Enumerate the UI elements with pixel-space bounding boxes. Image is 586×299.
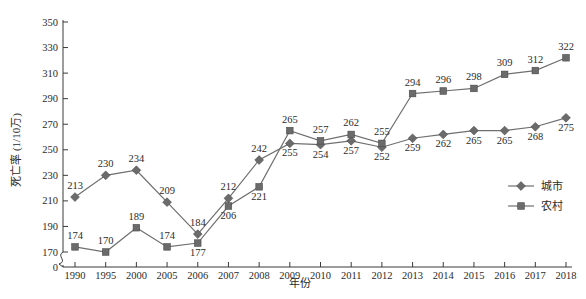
x-tick-label: 2005 [157, 270, 178, 281]
data-point-label: 189 [129, 211, 145, 222]
data-point-label: 254 [313, 149, 330, 160]
x-tick-label: 2008 [249, 270, 270, 281]
y-tick-label: 210 [42, 195, 58, 206]
data-point-marker [348, 131, 355, 138]
data-point-label: 298 [466, 71, 482, 82]
data-point-label: 309 [497, 57, 513, 68]
x-tick-label: 2011 [341, 270, 362, 281]
data-point-label: 262 [343, 117, 359, 128]
data-point-label: 206 [221, 210, 237, 221]
data-point-label: 296 [435, 74, 451, 85]
x-tick-label: 2018 [556, 270, 577, 281]
y-axis-title: 死亡率 (1/10万) [9, 113, 23, 187]
data-point-label: 212 [221, 181, 237, 192]
data-point-marker [225, 203, 232, 210]
x-tick-label: 2010 [310, 270, 331, 281]
x-tick-label: 2014 [433, 270, 455, 281]
data-point-label: 268 [527, 131, 543, 142]
x-tick-label: 2012 [371, 270, 392, 281]
data-point-label: 322 [558, 41, 574, 52]
y-tick-label: 350 [42, 17, 58, 28]
y-tick-label: 270 [42, 119, 58, 130]
data-point-label: 275 [558, 122, 574, 133]
y-tick-label: 290 [42, 93, 58, 104]
data-point-marker [317, 138, 324, 145]
data-point-label: 209 [159, 185, 175, 196]
x-tick-label: 2015 [463, 270, 484, 281]
legend-label-城市: 城市 [541, 179, 563, 192]
data-point-label: 174 [67, 230, 84, 241]
data-point-label: 177 [190, 247, 206, 258]
x-tick-label: 2017 [525, 270, 546, 281]
data-point-label: 257 [313, 124, 329, 135]
data-point-label: 255 [374, 126, 390, 137]
data-point-label: 265 [497, 135, 513, 146]
data-point-label: 312 [527, 54, 543, 65]
x-axis-title: 年份 [289, 276, 311, 289]
data-point-marker [194, 240, 201, 247]
data-point-label: 221 [251, 191, 267, 202]
data-point-label: 262 [435, 138, 451, 149]
y-tick-label: 330 [42, 42, 58, 53]
data-point-marker [256, 184, 263, 191]
y-tick-label: 230 [42, 170, 58, 181]
data-point-marker [102, 249, 109, 256]
data-point-marker [72, 244, 79, 251]
data-point-label: 213 [67, 180, 83, 191]
x-tick-label: 1990 [65, 270, 86, 281]
data-point-marker [532, 67, 539, 74]
data-point-label: 170 [98, 235, 114, 246]
data-point-marker [501, 71, 508, 78]
data-point-marker [133, 224, 140, 231]
data-point-label: 242 [251, 143, 267, 154]
data-point-marker [164, 244, 171, 251]
data-point-label: 294 [405, 77, 422, 88]
data-point-label: 265 [466, 135, 482, 146]
legend-marker [518, 203, 525, 210]
data-point-label: 255 [282, 147, 298, 158]
x-tick-label: 2007 [218, 270, 239, 281]
data-point-label: 184 [190, 217, 207, 228]
data-point-label: 174 [159, 230, 176, 241]
data-point-label: 257 [343, 145, 359, 156]
x-tick-label: 1995 [95, 270, 116, 281]
data-point-marker [409, 90, 416, 97]
data-point-marker [440, 88, 447, 95]
legend-label-农村: 农村 [541, 199, 563, 212]
data-point-marker [379, 140, 386, 147]
data-point-label: 252 [374, 151, 390, 162]
y-tick-label: 250 [42, 144, 58, 155]
y-tick-label: 190 [42, 221, 58, 232]
y-tick-label: 170 [42, 247, 58, 258]
chart-canvas: 死亡率 (1/10万) 1701902102302502702903103303… [0, 0, 586, 299]
y-zero-label: 0 [53, 262, 58, 273]
x-tick-label: 2016 [494, 270, 515, 281]
x-tick-label: 2000 [126, 270, 147, 281]
data-point-marker [563, 54, 570, 61]
y-tick-label: 310 [42, 68, 58, 79]
x-tick-label: 2006 [187, 270, 208, 281]
data-point-label: 230 [98, 158, 114, 169]
data-point-marker [471, 85, 478, 92]
data-point-label: 234 [129, 153, 146, 164]
data-point-label: 265 [282, 114, 298, 125]
data-point-label: 259 [405, 142, 421, 153]
data-point-marker [287, 127, 294, 134]
x-tick-label: 2013 [402, 270, 423, 281]
line-chart: 死亡率 (1/10万) 1701902102302502702903103303… [0, 0, 586, 299]
